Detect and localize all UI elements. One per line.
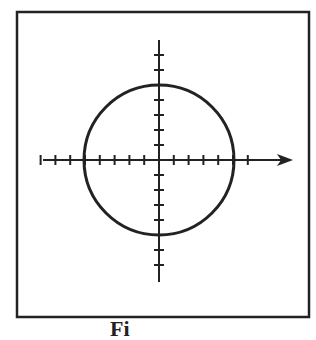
- x-axis: [41, 155, 285, 165]
- frame-border: [17, 12, 309, 317]
- figure-caption: Fi: [110, 318, 130, 340]
